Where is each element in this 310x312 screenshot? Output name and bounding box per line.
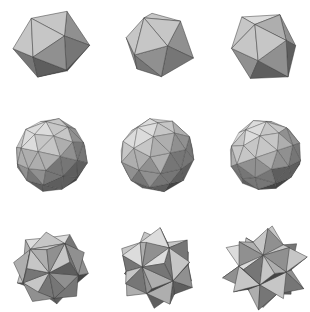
stellated-polyhedron-3: stellated-polyhedron-3 [214,216,310,312]
stellated-polyhedron-2-svg [114,225,200,311]
stellated-polyhedron-2: stellated-polyhedron-2 [106,216,209,312]
geodesic-sphere-3-svg [217,107,309,203]
facet [62,176,77,189]
geodesic-sphere-2: geodesic-sphere-2 [106,103,209,207]
geodesic-sphere-1: geodesic-sphere-1 [0,103,103,207]
facet [77,160,87,177]
facet [232,130,246,146]
faceted-polyhedron-3: faceted-polyhedron-3 [214,0,310,99]
geodesic-sphere-3: geodesic-sphere-3 [214,103,310,207]
faceted-polyhedron-2: faceted-polyhedron-2 [106,0,209,99]
faceted-polyhedron-3-svg [217,0,309,95]
stellated-polyhedron-1: stellated-polyhedron-1 [0,216,103,312]
faceted-polyhedron-1: faceted-polyhedron-1 [0,0,103,99]
faceted-polyhedron-1-svg [3,0,99,95]
stellated-polyhedron-3-svg [224,227,306,309]
stellated-polyhedron-1-svg [6,223,96,312]
polyhedra-grid: faceted-polyhedron-1faceted-polyhedron-2… [0,0,309,312]
faceted-polyhedron-2-svg [110,0,204,94]
geodesic-sphere-1-svg [3,107,99,203]
geodesic-sphere-2-svg [108,106,206,204]
